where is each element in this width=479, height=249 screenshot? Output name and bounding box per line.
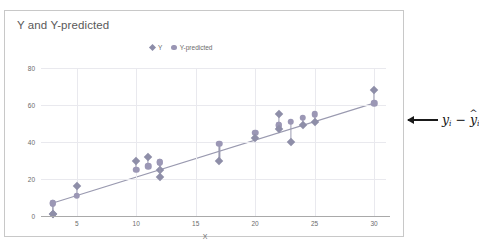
data-point-y-predicted bbox=[133, 167, 140, 174]
plot-area bbox=[41, 68, 386, 216]
legend-label-y: Y bbox=[158, 44, 162, 51]
residual-formula: yi − ^yi bbox=[442, 112, 479, 128]
y-tick-label: 40 bbox=[13, 139, 35, 146]
x-tick-label: 25 bbox=[304, 220, 326, 227]
data-point-y-predicted bbox=[371, 100, 378, 107]
gridline-horizontal bbox=[41, 68, 386, 69]
gridline-horizontal bbox=[41, 142, 386, 143]
gridline-vertical bbox=[315, 68, 316, 216]
data-point-y-predicted bbox=[157, 159, 164, 166]
diamond-marker-icon bbox=[149, 44, 156, 51]
x-tick-label: 20 bbox=[244, 220, 266, 227]
hat-icon: ^ bbox=[469, 107, 477, 118]
y-tick-label: 80 bbox=[13, 65, 35, 72]
data-point-y-predicted bbox=[288, 118, 295, 125]
y-tick-label: 0 bbox=[13, 213, 35, 220]
gridline-horizontal bbox=[41, 105, 386, 106]
x-tick-label: 10 bbox=[125, 220, 147, 227]
y-tick-label: 20 bbox=[13, 176, 35, 183]
circle-marker-icon bbox=[171, 45, 177, 51]
residual-annotation: yi − ^yi bbox=[408, 112, 479, 128]
x-tick-label: 30 bbox=[363, 220, 385, 227]
formula-sub-i: i bbox=[449, 119, 451, 128]
gridline-vertical bbox=[196, 68, 197, 216]
formula-minus: − bbox=[455, 112, 465, 127]
formula-y: y bbox=[442, 112, 449, 127]
x-axis-label: X bbox=[5, 233, 405, 240]
formula-yhat: ^y bbox=[470, 112, 477, 127]
chart-title: Y and Y-predicted bbox=[17, 19, 109, 31]
data-point-y-predicted bbox=[73, 192, 80, 199]
y-tick-label: 60 bbox=[13, 102, 35, 109]
x-tick-label: 15 bbox=[185, 220, 207, 227]
gridline-horizontal bbox=[41, 179, 386, 180]
chart-legend: Y Y-predicted bbox=[150, 44, 213, 51]
data-point-y-predicted bbox=[145, 163, 152, 170]
x-axis-line bbox=[41, 216, 390, 217]
legend-item-y: Y bbox=[150, 44, 162, 51]
gridline-vertical bbox=[136, 68, 137, 216]
chart-card: Y and Y-predicted Y Y-predicted 02040608… bbox=[4, 10, 404, 237]
left-arrow-icon bbox=[408, 119, 438, 121]
legend-label-y-predicted: Y-predicted bbox=[180, 44, 213, 51]
data-point-y-predicted bbox=[50, 200, 57, 207]
x-tick-label: 5 bbox=[66, 220, 88, 227]
data-point-y-predicted bbox=[216, 141, 223, 148]
gridline-vertical bbox=[255, 68, 256, 216]
legend-item-y-predicted: Y-predicted bbox=[171, 44, 212, 51]
